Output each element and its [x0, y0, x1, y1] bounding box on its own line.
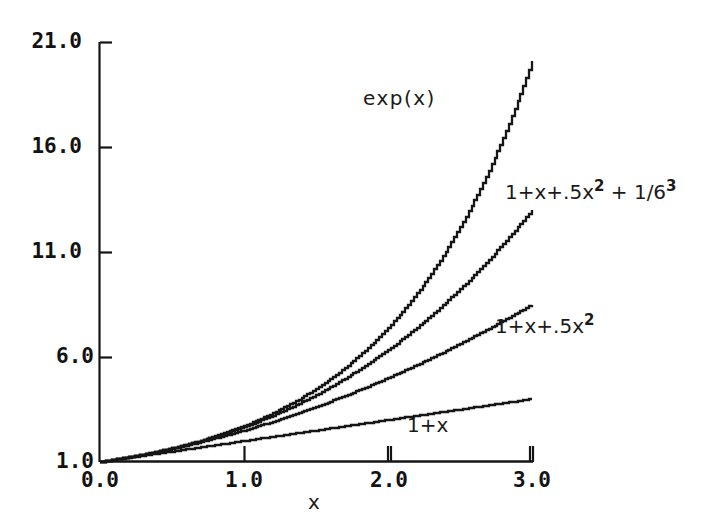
curve-cubic: [100, 210, 532, 462]
curve-label-exp: exp(x): [363, 88, 436, 108]
data-curves: [100, 61, 532, 462]
cubic-label-prefix: 1+x+.5x: [505, 180, 594, 204]
cubic-label-middle: + 1/6: [604, 180, 666, 204]
x-axis-label: x: [308, 492, 320, 512]
curve-label-linear: 1+x: [407, 415, 448, 435]
y-tick-label-21: 21.0: [4, 31, 82, 52]
cubic-label-exponent-2: 2: [594, 177, 604, 195]
chart-figure: 21.0 16.0 11.0 6.0 1.0 0.0 1.0 2.0 3.0 x…: [0, 0, 704, 526]
x-tick-label-3: 3.0: [487, 470, 577, 491]
curve-label-cubic: 1+x+.5x2 + 1/63: [505, 182, 677, 202]
cubic-label-exponent-3: 3: [666, 177, 676, 195]
curve-exp-x-: [100, 61, 532, 462]
curve-label-quadratic: 1+x+.5x2: [495, 316, 594, 336]
x-tick-label-0: 0.0: [55, 470, 145, 491]
x-tick-label-1: 1.0: [199, 470, 289, 491]
plot-canvas: [0, 0, 704, 526]
quadratic-label-prefix: 1+x+.5x: [495, 314, 584, 338]
y-tick-label-11: 11.0: [4, 241, 82, 262]
y-axis-ticks: [100, 43, 112, 358]
curve-quadratic: [100, 305, 532, 462]
quadratic-label-exponent-2: 2: [584, 311, 594, 329]
y-tick-label-6: 6.0: [16, 346, 94, 367]
x-tick-label-2: 2.0: [344, 470, 434, 491]
y-tick-label-16: 16.0: [4, 136, 82, 157]
x-axis-ticks: [245, 446, 534, 462]
